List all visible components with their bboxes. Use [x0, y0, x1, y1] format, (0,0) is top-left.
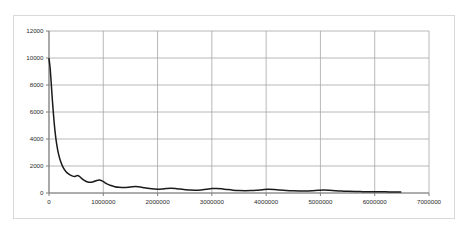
grid-lines — [49, 31, 429, 193]
x-axis-tick-label: 6000000 — [363, 198, 388, 205]
y-axis-tick-label: 12000 — [26, 27, 44, 34]
y-axis-tick-label: 2000 — [30, 162, 44, 169]
x-axis-tick-label: 5000000 — [308, 198, 333, 205]
series-line-series-1 — [49, 59, 401, 192]
x-axis-tick-label: 0 — [47, 198, 51, 205]
x-axis-tick-label: 1000000 — [91, 198, 116, 205]
x-axis-tick-label: 7000000 — [417, 198, 442, 205]
y-axis-tick-labels: 020004000600080001000012000 — [26, 27, 44, 196]
x-axis-tick-label: 3000000 — [200, 198, 225, 205]
data-series-line — [49, 59, 401, 192]
x-axis-tick-labels: 0100000020000003000000400000050000006000… — [47, 198, 441, 205]
chart-frame: 020004000600080001000012000 010000002000… — [13, 15, 455, 219]
y-axis-tick-label: 4000 — [30, 135, 44, 142]
y-axis-tick-label: 8000 — [30, 81, 44, 88]
chart-container: 020004000600080001000012000 010000002000… — [0, 0, 468, 234]
line-chart-plot: 020004000600080001000012000 010000002000… — [14, 16, 454, 218]
y-axis-tick-label: 10000 — [26, 54, 44, 61]
x-axis-tick-label: 2000000 — [146, 198, 171, 205]
x-axis-tick-label: 4000000 — [254, 198, 279, 205]
y-axis-tick-label: 0 — [40, 189, 44, 196]
y-axis-tick-label: 6000 — [30, 108, 44, 115]
